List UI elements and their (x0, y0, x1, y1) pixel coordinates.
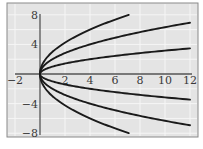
x-tick-label: 8 (137, 74, 144, 87)
x-tick-label: 10 (158, 74, 172, 87)
y-tick-label: 4 (31, 38, 38, 51)
sqrt-curves-chart: −224681012 84−4−8 (0, 0, 203, 149)
x-tick-label: −2 (7, 74, 23, 87)
x-tick-label: 12 (183, 74, 197, 87)
y-tick-label: 8 (31, 9, 38, 22)
x-tick-label: 4 (87, 74, 94, 87)
x-tick-label: 6 (112, 74, 119, 87)
x-tick-label: 2 (62, 74, 69, 87)
y-tick-label: −8 (22, 127, 38, 140)
plot-panel (7, 3, 198, 137)
y-tick-label: −4 (22, 98, 38, 111)
